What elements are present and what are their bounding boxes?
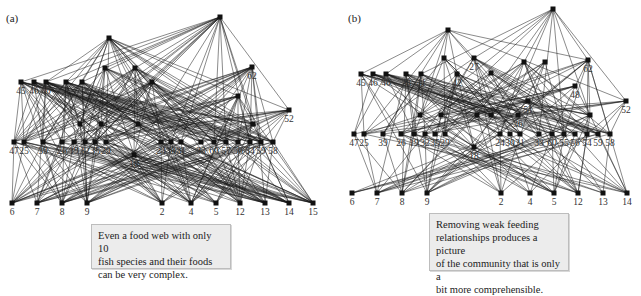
species-label: 30 [505,138,515,148]
caption-line: can be very complex. [98,268,224,281]
species-label: 59 [256,146,266,156]
species-node [624,99,629,104]
caption-line: of the community that is only a [436,257,562,283]
species-label: 28 [401,78,411,88]
species-node [136,122,141,127]
species-label: 13 [260,207,270,217]
species-label: 15 [308,207,318,217]
species-label: 25 [19,146,29,156]
species-label: 31 [176,146,186,156]
caption-line: bit more comprehensible. [436,283,562,296]
species-label: 24 [495,138,505,148]
species-node [218,15,223,20]
food-web-panel-a: (a) 454640625247253926193235292430313360… [0,0,320,281]
species-node [263,201,268,206]
species-label: 36 [513,119,523,129]
species-node [551,7,556,12]
species-label: 51 [523,105,533,115]
species-label: 30 [166,146,176,156]
species-label: 52 [284,114,294,124]
species-node [518,132,523,137]
species-label: 52 [621,105,631,115]
species-node [576,191,581,196]
species-label: 57 [221,146,231,156]
caption-line: fish species and their foods [98,255,224,268]
species-node [442,56,447,61]
caption-line: Removing weak feeding [436,218,562,231]
species-node [60,201,65,206]
species-node [455,72,460,77]
species-label: 47 [349,138,359,148]
species-node [60,140,65,145]
species-node [41,140,46,145]
species-label: 18 [129,159,139,169]
species-node [236,140,241,145]
species-node [601,191,606,196]
species-label: 2 [160,207,165,217]
species-node [608,132,613,137]
species-node [78,122,83,127]
species-node [99,122,104,127]
species-label: 47 [9,146,19,156]
species-label: 62 [583,64,593,74]
species-label: 19 [409,138,419,148]
species-node [423,132,428,137]
species-node [526,99,531,104]
species-node [552,191,557,196]
species-node [103,66,108,71]
caption-box-b: Removing weak feeding relationships prod… [429,213,569,271]
species-label: 2 [499,197,504,207]
species-node [419,72,424,77]
species-node [199,140,204,145]
species-node [446,28,451,33]
species-label: 56 [233,146,243,156]
species-label: 42 [452,78,462,88]
species-label: 27 [469,62,479,72]
species-node [443,132,448,137]
species-label: 25 [359,138,369,148]
species-node [150,80,155,85]
species-node [212,140,217,145]
species-node [404,72,409,77]
species-node [32,80,37,85]
species-node [352,132,357,137]
species-label: 39 [378,138,388,148]
species-node [72,140,77,145]
species-label: 58 [268,146,278,156]
species-label: 33 [534,138,544,148]
species-node [586,58,591,63]
species-label: 4 [189,207,194,217]
species-node [179,140,184,145]
species-node [425,191,430,196]
species-node [585,132,590,137]
species-node [287,108,292,113]
species-label: 35 [430,138,440,148]
species-label: 9 [425,197,430,207]
species-label: 24 [156,146,166,156]
species-label: 6 [10,207,15,217]
species-node [250,65,255,70]
species-node [400,191,405,196]
species-label: 9 [85,207,90,217]
caption-line: Even a food web with only 10 [98,229,224,255]
species-node [224,140,229,145]
species-node [625,191,630,196]
species-node [522,60,527,65]
species-label: 58 [605,138,615,148]
species-node [384,72,389,77]
caption-line: relationships produces a picture [436,231,562,257]
species-node [573,132,578,137]
species-node [259,140,264,145]
species-node [489,71,494,76]
species-label: 26 [57,146,67,156]
species-label: 54 [582,138,592,148]
species-node [12,140,17,145]
species-node [562,132,567,137]
species-node [85,201,90,206]
species-node [22,140,27,145]
species-label: 45 [16,86,26,96]
species-node [439,113,444,118]
species-label: 35 [90,146,100,156]
species-node [238,201,243,206]
species-label: 32 [80,146,90,156]
